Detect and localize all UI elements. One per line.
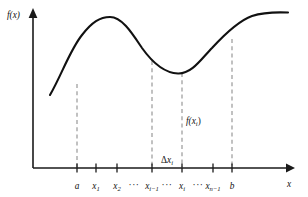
ellipsis-3: ··· <box>192 180 203 190</box>
f-of-xi-suffix: ) <box>198 116 201 127</box>
f-of-xi-label: f(xi) <box>186 116 201 127</box>
ellipsis-group: ··· ··· ··· <box>128 180 203 190</box>
tick-label-xn-minus-1: xn−1 <box>204 181 220 192</box>
tick-label-b-base: b <box>230 181 235 191</box>
x-axis-label: x <box>286 179 292 189</box>
delta-xi-sub: i <box>171 159 173 166</box>
axis-labels-group: f(x) x <box>7 10 292 189</box>
figure-container: f(x) x a x1 x2 xi−1 xi xn−1 <box>0 0 308 197</box>
tick-label-a-base: a <box>75 181 80 191</box>
tick-label-xi-minus-1: xi−1 <box>144 181 159 192</box>
y-axis-label: f(x) <box>7 10 20 21</box>
tick-label-xn-minus-1-sub: n−1 <box>210 185 221 192</box>
tick-label-x2: x2 <box>112 181 121 192</box>
tick-label-x1: x1 <box>91 181 99 192</box>
tick-label-x1-sub: 1 <box>96 185 99 192</box>
x-axis-arrow-icon <box>286 164 295 173</box>
function-curve-group <box>50 12 288 95</box>
tick-label-a: a <box>75 181 80 191</box>
tick-label-xi: xi <box>178 181 185 192</box>
tick-label-x2-sub: 2 <box>117 185 121 192</box>
tick-labels-group: a x1 x2 xi−1 xi xn−1 b <box>75 181 235 192</box>
delta-xi-label: Δxi <box>161 155 173 166</box>
function-curve <box>50 12 288 95</box>
tick-label-xi-minus-1-sub: i−1 <box>149 185 159 192</box>
ellipsis-1: ··· <box>128 180 139 190</box>
y-axis-arrow-icon <box>29 8 38 18</box>
dashed-lines-group <box>77 39 232 168</box>
f-of-xi-annotation: f(xi) <box>186 116 201 127</box>
ellipsis-2: ··· <box>161 180 172 190</box>
axes-group <box>29 8 295 172</box>
tick-label-xi-sub: i <box>183 185 185 192</box>
riemann-partition-figure: f(x) x a x1 x2 xi−1 xi xn−1 <box>0 0 308 197</box>
tick-label-b: b <box>230 181 235 191</box>
delta-xi-annotation: Δxi <box>161 155 173 166</box>
